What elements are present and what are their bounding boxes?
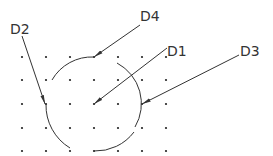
grid-dot — [117, 127, 119, 129]
grid-dot — [21, 79, 23, 81]
grid-dot — [21, 56, 23, 58]
grid-dot — [141, 127, 143, 129]
grid-dot — [45, 56, 47, 58]
grid-dot — [69, 150, 71, 152]
grid-dot — [117, 79, 119, 81]
diagram-canvas: D1 D2 D3 D4 — [0, 0, 273, 156]
grid-dot — [165, 103, 167, 105]
label-d2: D2 — [10, 21, 30, 37]
grid-dot — [45, 150, 47, 152]
grid-dot — [93, 127, 95, 129]
arc-right — [117, 63, 141, 127]
leader-d2 — [22, 36, 45, 104]
grid-dot — [69, 56, 71, 58]
label-d4: D4 — [140, 8, 160, 24]
arc-left — [52, 57, 94, 80]
grid-dot — [21, 150, 23, 152]
grid-dot — [21, 127, 23, 129]
grid-dot — [165, 79, 167, 81]
grid-dot — [45, 79, 47, 81]
grid-dot — [117, 56, 119, 58]
leader-d4 — [94, 25, 140, 57]
label-d3: D3 — [240, 43, 260, 59]
grid-dot — [69, 103, 71, 105]
leader-d1 — [94, 48, 167, 104]
grid-dot — [45, 127, 47, 129]
grid-dot — [93, 79, 95, 81]
grid-dot — [69, 127, 71, 129]
grid-dot — [69, 79, 71, 81]
arc-left-lower — [46, 104, 70, 148]
grid-dot — [117, 103, 119, 105]
grid-dot — [141, 150, 143, 152]
grid-dot — [165, 150, 167, 152]
label-d1: D1 — [167, 43, 187, 59]
grid-dot — [141, 56, 143, 58]
grid-dot — [21, 103, 23, 105]
leader-d3 — [142, 55, 239, 104]
grid-dot — [117, 150, 119, 152]
arc-bottom — [94, 132, 134, 151]
grid-dot — [141, 79, 143, 81]
grid-dot — [165, 127, 167, 129]
